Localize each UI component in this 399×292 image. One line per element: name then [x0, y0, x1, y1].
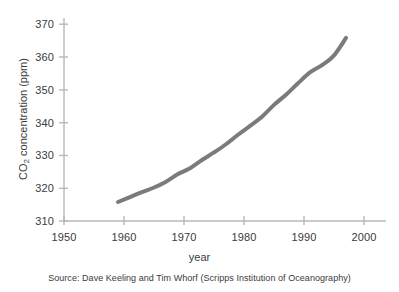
x-tick-label-1950: 1950: [42, 232, 86, 243]
x-axis-title: year: [0, 251, 399, 263]
y-tick-label-370: 370: [20, 19, 54, 30]
y-tick-label-310: 310: [20, 216, 54, 227]
plot-area: [0, 0, 399, 292]
x-tick-label-2000: 2000: [342, 232, 386, 243]
co2-data-line: [118, 38, 346, 202]
y-axis-title-suffix: concentration (ppm): [17, 58, 29, 159]
y-axis-title-prefix: CO: [17, 163, 29, 180]
x-tick-label-1990: 1990: [282, 232, 326, 243]
y-axis-title: CO2 concentration (ppm): [17, 34, 31, 204]
x-tick-label-1980: 1980: [222, 232, 266, 243]
source-caption: Source: Dave Keeling and Tim Whorf (Scri…: [0, 273, 399, 284]
y-axis-title-subscript: 2: [22, 159, 31, 163]
co2-concentration-chart: 370 360 350 340 330 320 310 1950 1960 19…: [0, 0, 399, 292]
x-tick-label-1970: 1970: [162, 232, 206, 243]
x-tick-label-1960: 1960: [102, 232, 146, 243]
